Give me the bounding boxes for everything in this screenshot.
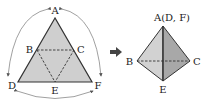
- label-a: A: [50, 5, 59, 16]
- triangle-net: A B C D E F: [8, 5, 102, 99]
- label-e: E: [51, 85, 58, 96]
- label-c: C: [77, 44, 85, 55]
- label-tetra-b: B: [126, 56, 133, 67]
- label-tetra-e: E: [159, 84, 166, 95]
- diagram-canvas: A B C D E F A(D, F) B C E: [0, 0, 207, 102]
- tetrahedron: A(D, F) B C E: [126, 12, 201, 95]
- label-tetra-c: C: [193, 56, 201, 67]
- label-d: D: [8, 80, 16, 91]
- face-left: [137, 26, 163, 81]
- face-right: [163, 26, 190, 81]
- label-a-df: A(D, F): [153, 12, 190, 23]
- right-arrow-icon: [110, 47, 122, 57]
- label-b: B: [26, 44, 33, 55]
- label-f: F: [95, 80, 102, 91]
